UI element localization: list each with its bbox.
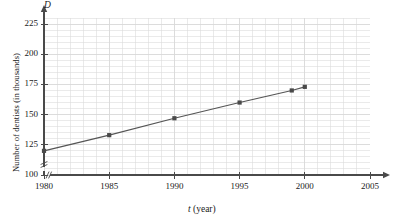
x-tick-label: 2000 xyxy=(288,181,322,191)
data-point xyxy=(172,116,176,120)
data-point xyxy=(303,85,307,89)
y-tick-label: 150 xyxy=(14,109,38,119)
chart-figure: D Number of dentists (in thousands) t (y… xyxy=(0,0,397,219)
x-tick-label: 1995 xyxy=(223,181,257,191)
chart-ticks xyxy=(41,24,371,178)
y-tick-label: 200 xyxy=(14,48,38,58)
x-axis-unit: (year) xyxy=(193,204,216,214)
y-tick-label: 100 xyxy=(14,169,38,179)
y-tick-label: 125 xyxy=(14,139,38,149)
x-tick-label: 1990 xyxy=(157,181,191,191)
x-tick-label: 1980 xyxy=(27,181,61,191)
data-point xyxy=(290,88,294,92)
x-tick-label: 2005 xyxy=(353,181,387,191)
y-tick-label: 175 xyxy=(14,78,38,88)
y-axis-symbol: D xyxy=(44,0,51,10)
data-point xyxy=(107,133,111,137)
x-tick-label: 1985 xyxy=(92,181,126,191)
x-axis-symbol: t xyxy=(188,204,191,214)
x-axis-title: t (year) xyxy=(188,204,216,214)
data-point xyxy=(42,149,46,153)
chart-gridlines xyxy=(44,18,370,175)
chart-axes xyxy=(41,5,390,178)
y-tick-label: 225 xyxy=(14,18,38,28)
data-point xyxy=(238,100,242,104)
